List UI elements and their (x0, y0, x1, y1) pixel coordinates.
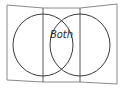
outer-frame (7, 4, 117, 84)
frame-top (7, 4, 117, 8)
frame-bottom (7, 80, 117, 84)
dividers (43, 8, 80, 82)
venn-diagram: Both (0, 0, 124, 92)
intersection-label: Both (50, 29, 73, 40)
